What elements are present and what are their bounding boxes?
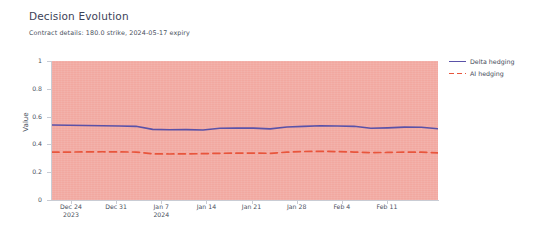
chart-legend: Delta hedgingAI hedging — [449, 56, 514, 80]
plot-area — [52, 61, 438, 200]
x-tick-mark — [161, 200, 162, 204]
x-tick-mark — [297, 200, 298, 204]
legend-line-icon — [449, 70, 466, 78]
series-line — [52, 151, 438, 154]
legend-label: AI hedging — [470, 70, 504, 77]
series-line — [52, 125, 438, 130]
y-tick-mark — [47, 117, 51, 118]
x-tick-line2: 2023 — [41, 211, 101, 219]
x-tick-mark — [387, 200, 388, 204]
x-tick-mark — [206, 200, 207, 204]
series-lines — [52, 61, 438, 200]
legend-label: Delta hedging — [470, 58, 514, 65]
x-tick-mark — [252, 200, 253, 204]
plot-wrapper: Value 10.80.60.40.20 Dec 242023Dec 31Jan… — [0, 0, 537, 238]
x-tick-mark — [116, 200, 117, 204]
x-axis-line — [52, 200, 439, 201]
x-tick-mark — [342, 200, 343, 204]
legend-item[interactable]: Delta hedging — [449, 56, 514, 67]
x-tick-label: Feb 11 — [357, 203, 417, 211]
y-tick-label: 0 — [0, 196, 42, 203]
x-tick-line2: 2024 — [131, 211, 191, 219]
legend-line-icon — [449, 58, 466, 66]
y-tick-label: 1 — [0, 57, 42, 64]
y-tick-mark — [47, 200, 51, 201]
y-tick-mark — [47, 89, 51, 90]
y-tick-label: 0.4 — [0, 140, 42, 147]
y-tick-label: 0.2 — [0, 168, 42, 175]
y-tick-mark — [47, 61, 51, 62]
y-tick-label: 0.6 — [0, 113, 42, 120]
y-tick-mark — [47, 144, 51, 145]
chart-card: Decision Evolution Contract details: 180… — [0, 0, 537, 238]
legend-item[interactable]: AI hedging — [449, 68, 514, 79]
y-tick-mark — [47, 172, 51, 173]
x-tick-mark — [71, 200, 72, 204]
y-tick-label: 0.8 — [0, 85, 42, 92]
x-tick-line1: Feb 11 — [357, 203, 417, 211]
